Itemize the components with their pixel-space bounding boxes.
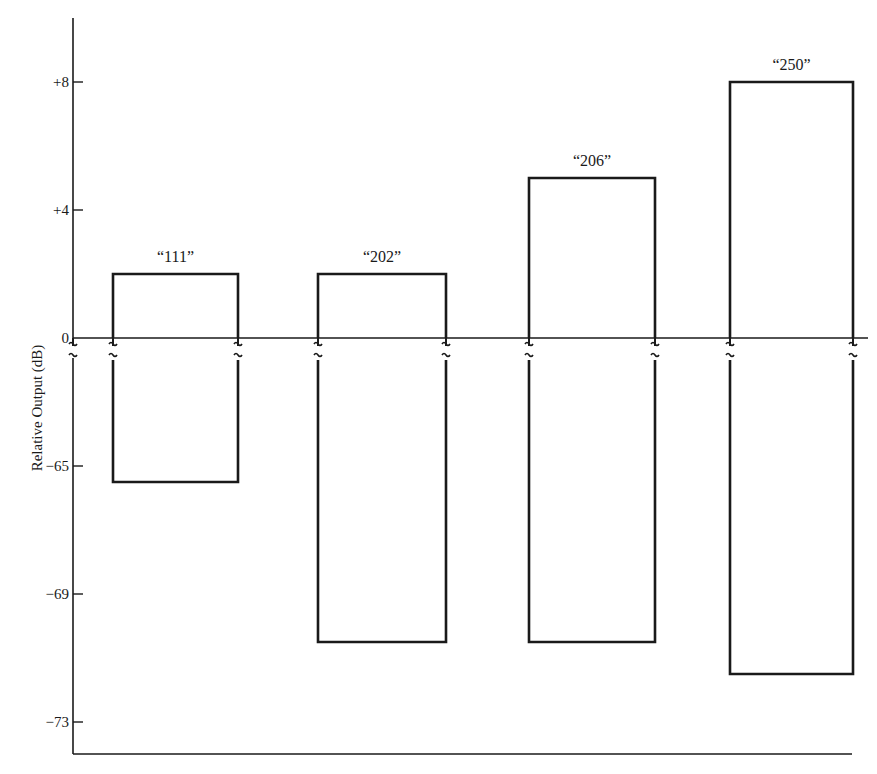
bar-lower-outline	[529, 360, 655, 642]
break-icon	[234, 338, 242, 357]
break-icon	[109, 338, 117, 357]
y-tick-label: +8	[53, 74, 69, 90]
break-icon	[726, 338, 734, 357]
break-icon	[849, 338, 857, 357]
bar-upper-outline	[730, 82, 853, 338]
break-icon	[651, 338, 659, 357]
bar-lower-outline	[318, 360, 446, 642]
bar-upper-outline	[529, 178, 655, 338]
axis-break-icon	[69, 338, 77, 357]
bar-3: “250”	[726, 56, 857, 674]
break-icon	[314, 338, 322, 357]
bar-label: “202”	[363, 248, 401, 265]
bars: “111”“202”“206”“250”	[109, 56, 857, 674]
bar-lower-outline	[730, 360, 853, 674]
bar-0: “111”	[109, 248, 242, 482]
break-icon	[442, 338, 450, 357]
y-axis-title: Relative Output (dB)	[29, 345, 46, 472]
y-tick-label: −65	[46, 458, 69, 474]
axes	[69, 18, 868, 754]
y-tick-label: −73	[46, 714, 69, 730]
y-tick-label: −69	[46, 586, 69, 602]
bar-1: “202”	[314, 248, 450, 642]
y-tick-label: +4	[53, 202, 69, 218]
bar-label: “250”	[772, 56, 810, 73]
bar-2: “206”	[525, 152, 659, 642]
bar-label: “111”	[157, 248, 194, 265]
y-tick-label: 0	[62, 330, 70, 346]
bar-upper-outline	[113, 274, 238, 338]
bar-upper-outline	[318, 274, 446, 338]
break-icon	[525, 338, 533, 357]
bar-chart: +8+40−65−69−73 “111”“202”“206”“250” Rela…	[0, 0, 877, 774]
y-ticks: +8+40−65−69−73	[46, 74, 83, 730]
bar-lower-outline	[113, 360, 238, 482]
bar-label: “206”	[573, 152, 611, 169]
